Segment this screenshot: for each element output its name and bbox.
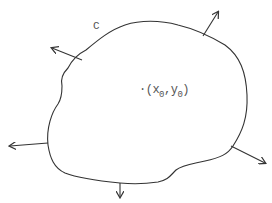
normal-arrow-left bbox=[10, 143, 48, 146]
normal-arrow-lower-right bbox=[231, 146, 265, 163]
normal-arrow-top-right bbox=[203, 12, 218, 36]
comma: , bbox=[164, 83, 171, 97]
curve-canvas bbox=[0, 0, 272, 203]
point-dot: · bbox=[139, 83, 146, 97]
curve-label-c: C bbox=[93, 21, 100, 32]
closed-curve-c bbox=[48, 21, 248, 183]
closed-curve-diagram: C ·(x0,y0) bbox=[0, 0, 272, 203]
normal-arrow-upper-left bbox=[52, 48, 82, 60]
close-paren: ) bbox=[182, 83, 189, 97]
point-label-x0-y0: ·(x0,y0) bbox=[139, 84, 189, 100]
